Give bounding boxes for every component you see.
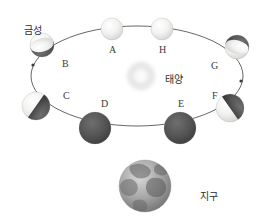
position-label-c: C — [63, 90, 70, 101]
planet-c — [22, 92, 57, 127]
position-label-g: G — [211, 60, 218, 71]
planet-d — [79, 112, 111, 144]
earth-body — [119, 160, 171, 212]
planet-a — [101, 18, 123, 40]
earth-label: 지구 — [200, 188, 218, 203]
planet-g — [223, 31, 253, 59]
position-label-b: B — [62, 58, 69, 69]
position-label-h: H — [159, 44, 166, 55]
venus-label: 금성 — [24, 22, 42, 37]
planet-h — [151, 18, 173, 40]
sun-label: 태양 — [165, 71, 183, 86]
orbit-direction-arrow-right — [239, 79, 242, 82]
sun-body — [124, 59, 158, 93]
position-label-e: E — [178, 98, 184, 109]
planet-e — [164, 112, 196, 144]
planet-f — [216, 87, 251, 122]
position-label-d: D — [101, 98, 108, 109]
position-label-f: F — [212, 90, 218, 101]
planet-b — [28, 33, 58, 61]
venus-phases-diagram: 금성 태양 지구 ABCDEFGH — [0, 0, 269, 220]
orbit-direction-arrow-left — [31, 63, 34, 66]
position-label-a: A — [109, 44, 116, 55]
